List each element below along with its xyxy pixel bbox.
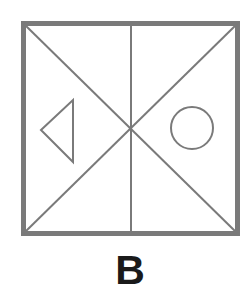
option-label: B [0, 248, 246, 292]
circle-icon [171, 107, 213, 149]
triangle-icon [41, 100, 73, 162]
